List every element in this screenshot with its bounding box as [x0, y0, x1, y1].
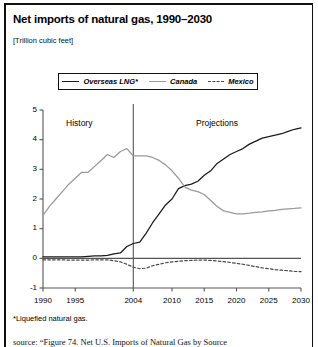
y-axis-tick-label: 4 — [23, 134, 37, 143]
chart-units-label: [Trillion cubic feet] — [13, 36, 73, 45]
x-axis-tick-label: 1990 — [26, 296, 60, 305]
x-axis-tick-label: 2004 — [116, 296, 150, 305]
legend-swatch-line-icon — [149, 81, 166, 82]
y-axis-tick-label: 0 — [23, 253, 37, 262]
x-axis-tick-label: 2020 — [220, 296, 254, 305]
chart-legend: Overseas LNG* Canada Mexico — [58, 73, 258, 90]
legend-swatch-dashed-line-icon — [208, 81, 224, 82]
legend-item-overseas-lng: Overseas LNG* — [62, 77, 138, 86]
legend-label: Canada — [170, 77, 197, 86]
chart-svg — [43, 110, 301, 288]
left-rule — [4, 3, 6, 347]
legend-item-mexico: Mexico — [208, 77, 253, 86]
footnote: *Liquefied natural gas. — [13, 314, 88, 323]
x-axis-tick-label: 2025 — [252, 296, 286, 305]
legend-label: Mexico — [228, 77, 253, 86]
series-line-canada — [43, 149, 301, 216]
x-axis-tick-label: 2015 — [187, 296, 221, 305]
y-axis-tick-label: 2 — [23, 194, 37, 203]
legend-item-canada: Canada — [149, 77, 197, 86]
x-axis-tick-label: 1995 — [58, 296, 92, 305]
legend-label: Overseas LNG* — [83, 77, 138, 86]
chart-title: Net imports of natural gas, 1990–2030 — [13, 13, 212, 25]
y-axis-tick-label: 3 — [23, 164, 37, 173]
y-axis-tick-label: 5 — [23, 105, 37, 114]
legend-swatch-line-icon — [62, 81, 79, 82]
y-axis-tick-label: 1 — [23, 223, 37, 232]
y-axis-tick-label: -1 — [23, 283, 37, 292]
plot-area — [43, 110, 301, 288]
figure-container: Net imports of natural gas, 1990–2030 [T… — [0, 0, 318, 347]
x-axis-tick-label: 2010 — [155, 296, 189, 305]
source-note: source: “Figure 74. Net U.S. Imports of … — [13, 337, 227, 347]
x-axis-tick-label: 2030 — [284, 296, 318, 305]
series-line-overseas-lng — [43, 128, 301, 257]
series-line-mexico — [43, 260, 301, 272]
